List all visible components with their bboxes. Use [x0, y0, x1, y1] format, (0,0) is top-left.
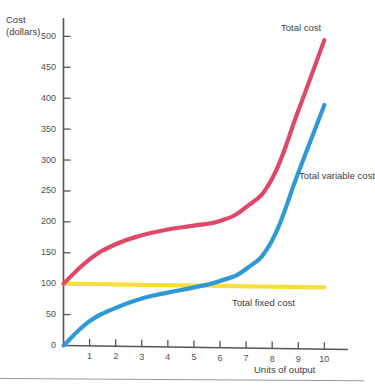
- x-tick-label: 5: [180, 352, 208, 362]
- x-axis-title: Units of output: [254, 364, 315, 376]
- x-tick-label: 7: [232, 353, 260, 363]
- y-tick-label: 200: [24, 216, 56, 226]
- y-tick-label: 450: [24, 62, 56, 72]
- x-tick-label: 10: [310, 354, 338, 364]
- y-tick-label: 250: [24, 185, 56, 195]
- y-tick-label: 500: [24, 31, 56, 41]
- y-tick-label: 400: [24, 93, 56, 103]
- y-tick-label: 150: [24, 247, 56, 257]
- x-tick-label: 1: [76, 351, 104, 361]
- total-cost-line: [64, 40, 325, 284]
- x-tick-label: 8: [258, 354, 286, 364]
- y-tick-label: 350: [24, 124, 56, 134]
- x-axis-line: [63, 346, 348, 350]
- total-fixed-cost-label: Total fixed cost: [232, 297, 295, 309]
- total-cost-label: Total cost: [281, 22, 321, 34]
- y-tick-label: 100: [24, 278, 56, 288]
- y-tick-label: 300: [24, 155, 56, 165]
- x-tick-label: 6: [206, 353, 234, 363]
- x-tick-label: 4: [154, 352, 182, 362]
- axes-group: [63, 18, 348, 350]
- y-tick-label: 50: [24, 309, 56, 319]
- x-tick-label: 2: [102, 351, 130, 361]
- x-tick-label: 9: [284, 354, 312, 364]
- y-tick-label: 0: [24, 340, 56, 350]
- x-tick-label: 3: [128, 352, 156, 362]
- total-variable-cost-label: Total variable cost: [299, 170, 375, 182]
- y-axis-ticks: [64, 36, 71, 314]
